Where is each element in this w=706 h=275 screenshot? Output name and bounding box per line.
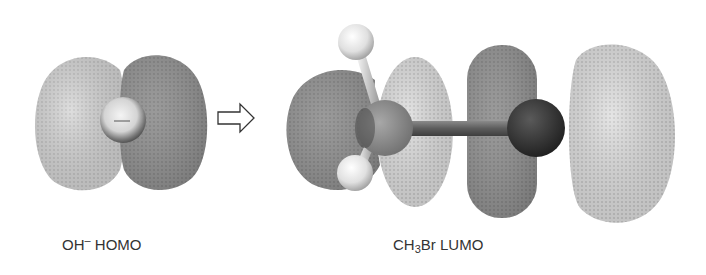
label-formula: OH — [62, 236, 85, 253]
label-orbital: HOMO — [91, 236, 142, 253]
hydrogen-atom-top — [338, 24, 374, 60]
orbital-illustration — [0, 0, 706, 275]
oxygen-atom — [100, 97, 146, 143]
hollow-right-arrow-icon — [218, 104, 254, 132]
label-orbital: LUMO — [436, 236, 484, 253]
label-formula-br: Br — [421, 236, 436, 253]
label-formula-ch: CH — [393, 236, 415, 253]
lumo-light-lobe-right — [569, 45, 675, 223]
hidden-hydrogen-shadow — [355, 108, 375, 148]
hydroxide-homo-orbital — [35, 55, 207, 190]
bromine-atom — [507, 99, 565, 157]
hydroxide-homo-label: OH– HOMO — [62, 236, 141, 253]
orbital-diagram: OH– HOMO CH3Br LUMO — [0, 0, 706, 275]
methyl-bromide-lumo-orbital — [286, 24, 675, 223]
methyl-bromide-lumo-label: CH3Br LUMO — [393, 236, 483, 253]
hydrogen-atom-bottom — [337, 155, 373, 191]
